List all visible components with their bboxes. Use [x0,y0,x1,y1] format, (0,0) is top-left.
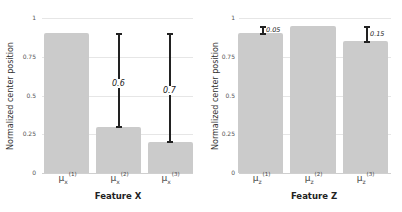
y-tick-0: 0 [215,169,235,176]
bar-mu-z-3 [343,41,388,173]
bar-mu-x-2 [96,127,141,173]
chart-feature-x: Normalized center position 1 0.75 0.5 0.… [0,0,201,212]
tick-sup: (2) [315,171,323,177]
y-tick-0: 0 [16,169,36,176]
bar-mu-z-1 [238,33,283,173]
error-bar-mu-z-3 [366,26,368,42]
y-tick-0.5: 0.5 [215,92,235,99]
tick-sup: (3) [367,171,375,177]
gridline-1 [42,18,193,19]
tick-sup: (2) [121,171,129,177]
error-label-mu-x-2: 0.6 [112,79,125,88]
error-cap-top [116,33,122,35]
x-tick-mu-z-2: μz(2) [298,173,328,183]
error-label-mu-x-3: 0.7 [163,86,176,95]
x-tick-mu-x-1: μx(1) [52,173,82,183]
y-tick-0.75: 0.75 [215,53,235,60]
tick-sub: z [310,178,313,185]
tick-sup: (1) [69,171,77,177]
x-axis-label: Feature X [58,191,178,201]
bar-mu-x-3 [148,142,193,173]
bar-mu-x-1 [44,33,89,173]
x-axis-label: Feature Z [254,191,374,201]
tick-sub: x [167,178,171,185]
tick-sup: (3) [172,171,180,177]
error-cap-top [167,33,173,35]
x-tick-mu-x-3: μx(3) [155,173,185,183]
y-tick-1: 1 [16,14,36,21]
y-tick-0.25: 0.25 [215,130,235,137]
x-tick-mu-x-2: μx(2) [104,173,134,183]
error-label-mu-z-3: 0.15 [370,30,384,39]
tick-sub: x [64,178,68,185]
tick-sub: z [362,178,365,185]
x-tick-mu-z-3: μz(3) [350,173,380,183]
tick-sub: z [258,178,261,185]
error-cap-bottom [116,126,122,128]
tick-sub: x [116,178,120,185]
error-cap-bottom [167,141,173,143]
error-cap-top [364,26,370,28]
x-tick-mu-z-1: μz(1) [246,173,276,183]
error-cap-bottom [364,41,370,43]
bar-mu-z-2 [290,26,336,173]
y-axis-label: Normalized center position [6,42,15,150]
y-tick-0.75: 0.75 [16,53,36,60]
error-label-mu-z-1: 0.05 [266,26,280,35]
y-tick-1: 1 [215,14,235,21]
y-tick-0.25: 0.25 [16,130,36,137]
gridline-1 [239,18,391,19]
y-tick-0.5: 0.5 [16,92,36,99]
tick-sup: (1) [263,171,271,177]
chart-feature-z: Normalized center position 1 0.75 0.5 0.… [201,0,402,212]
